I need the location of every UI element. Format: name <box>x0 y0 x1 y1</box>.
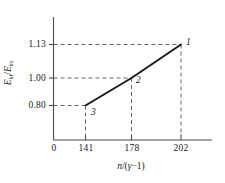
data-point-label-3: 3 <box>91 107 96 117</box>
data-line-series-0 <box>86 45 182 106</box>
data-point-label-1: 1 <box>186 37 191 47</box>
data-point-label-2: 2 <box>136 75 141 85</box>
x-tick-label-141: 141 <box>72 143 100 153</box>
x-axis-title: n/(γ−1) <box>86 161 176 171</box>
y-axis-title-denominator-sub: ks <box>7 61 14 67</box>
y-axis-title-numerator-sub: ki <box>7 75 14 80</box>
chart-figure: 1.13 1.00 0.80 0 141 178 202 1 2 3 n/(γ−… <box>0 0 225 183</box>
x-axis-title-minus-one: −1) <box>132 161 145 171</box>
y-axis-title: Eki/Eks <box>3 43 13 103</box>
y-axis-title-denominator-var: E <box>3 66 13 72</box>
y-tick-label-1.13: 1.13 <box>14 39 46 49</box>
y-axis-title-numerator-var: E <box>3 79 13 85</box>
x-tick-label-0: 0 <box>44 143 64 153</box>
x-tick-label-202: 202 <box>167 143 195 153</box>
plot-canvas <box>0 0 225 183</box>
x-tick-label-178: 178 <box>118 143 146 153</box>
y-tick-label-0.80: 0.80 <box>14 100 46 110</box>
y-tick-label-1.00: 1.00 <box>14 73 46 83</box>
